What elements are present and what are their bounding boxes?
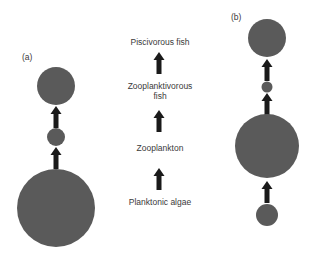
b-arrow-2-icon [262,93,273,115]
label-zooplanktivorous-fish: Zooplanktivorous fish [110,81,210,101]
center-arrow-3-icon [154,168,165,190]
label-planktonic-algae: Planktonic algae [110,197,210,207]
label-zooplanktivorous-line2: fish [110,91,210,101]
a-piscivorous-circle [37,67,75,105]
panel-a-label: (a) [22,52,32,62]
center-arrow-1-icon [154,52,165,74]
b-arrow-1-icon [262,59,273,81]
b-arrow-3-icon [262,181,273,203]
panel-b-label: (b) [231,12,241,22]
b-piscivorous-circle [248,19,286,57]
a-arrow-1-icon [51,106,62,128]
label-piscivorous-fish: Piscivorous fish [110,37,210,47]
b-zooplankton-circle [235,114,299,178]
b-algae-circle [256,204,278,226]
a-zooplanktivorous-circle [47,128,65,146]
b-zooplanktivorous-circle [262,82,273,93]
a-zooplankton-circle [17,169,95,247]
label-zooplanktivorous-line1: Zooplanktivorous [110,81,210,91]
center-arrow-2-icon [154,110,165,132]
label-zooplankton: Zooplankton [110,143,210,153]
a-arrow-2-icon [51,147,62,169]
